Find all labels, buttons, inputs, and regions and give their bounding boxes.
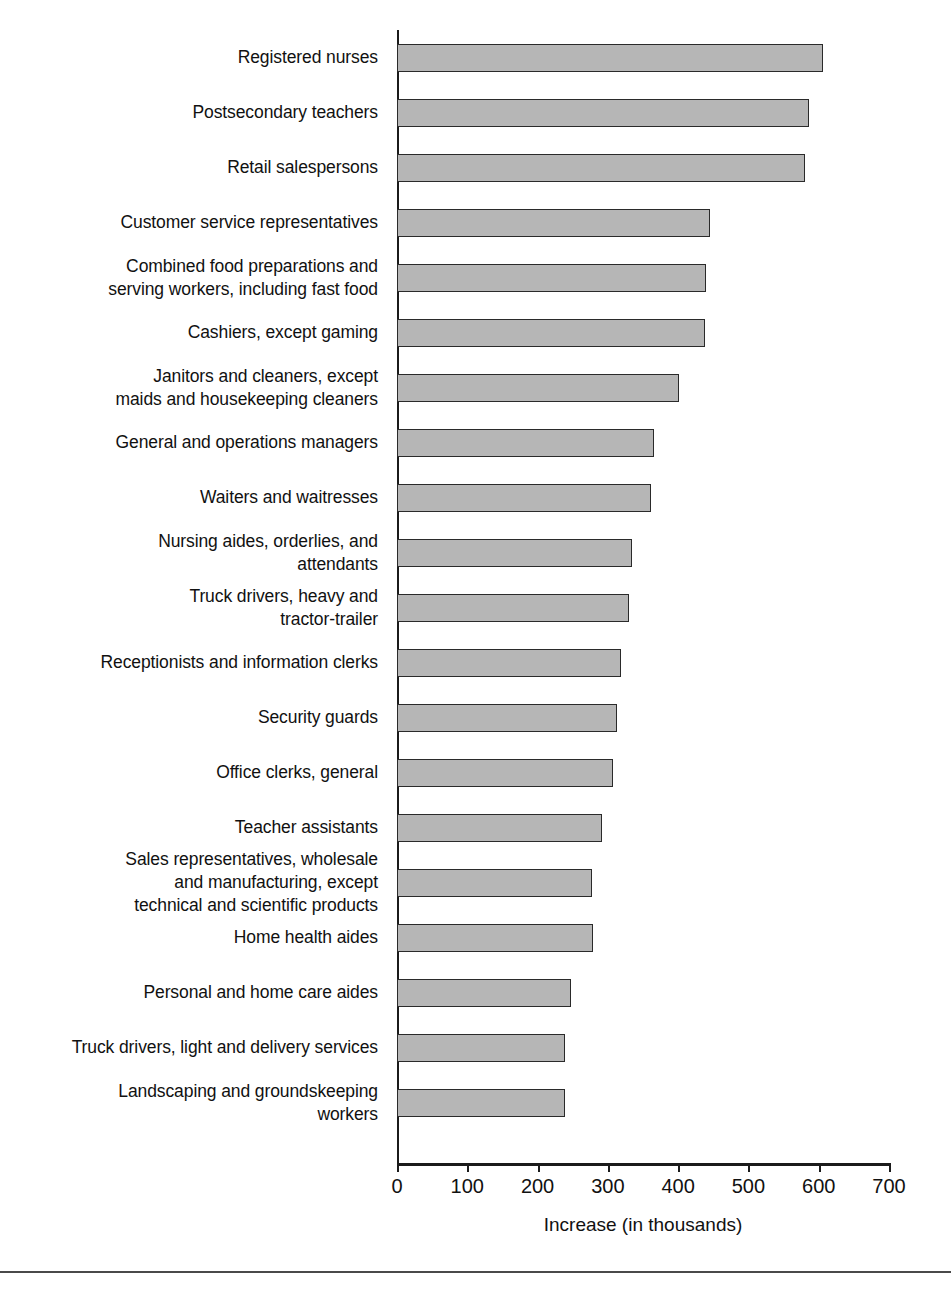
category-label-row: Truck drivers, light and delivery servic… xyxy=(0,1020,387,1075)
horizontal-bar-chart: Registered nursesPostsecondary teachersR… xyxy=(0,0,951,1290)
bar-row xyxy=(397,1020,897,1075)
category-label-row: Office clerks, general xyxy=(0,745,387,800)
category-label-row: Combined food preparations and serving w… xyxy=(0,250,387,305)
category-label: Truck drivers, light and delivery servic… xyxy=(72,1036,387,1059)
bar xyxy=(397,594,629,622)
category-label-row: General and operations managers xyxy=(0,415,387,470)
category-label: General and operations managers xyxy=(116,431,388,454)
category-label-row: Postsecondary teachers xyxy=(0,85,387,140)
category-label: Teacher assistants xyxy=(235,816,387,839)
category-label: Sales representatives, wholesale and man… xyxy=(125,848,387,917)
bar xyxy=(397,44,823,72)
bar-row xyxy=(397,965,897,1020)
x-tick xyxy=(678,1163,680,1172)
x-axis-title: Increase (in thousands) xyxy=(397,1213,889,1237)
category-label: Truck drivers, heavy and tractor-trailer xyxy=(189,585,387,631)
category-label: Customer service representatives xyxy=(121,211,387,234)
category-label-row: Home health aides xyxy=(0,910,387,965)
x-tick xyxy=(538,1163,540,1172)
x-tick-label: 200 xyxy=(521,1174,554,1198)
category-label-row: Waiters and waitresses xyxy=(0,470,387,525)
bar xyxy=(397,1034,565,1062)
bar xyxy=(397,759,613,787)
category-label: Security guards xyxy=(258,706,387,729)
bar-row xyxy=(397,525,897,580)
x-tick xyxy=(467,1163,469,1172)
x-tick xyxy=(748,1163,750,1172)
category-label-row: Teacher assistants xyxy=(0,800,387,855)
category-label-row: Nursing aides, orderlies, and attendants xyxy=(0,525,387,580)
bar-row xyxy=(397,30,897,85)
bar xyxy=(397,484,651,512)
category-label: Waiters and waitresses xyxy=(200,486,387,509)
bar-row xyxy=(397,140,897,195)
category-label: Home health aides xyxy=(234,926,387,949)
bar-row xyxy=(397,910,897,965)
bar-rows xyxy=(397,30,897,1130)
bar xyxy=(397,154,805,182)
x-tick-label: 400 xyxy=(661,1174,694,1198)
bar xyxy=(397,539,632,567)
x-axis-ticks: 0100200300400500600700 xyxy=(397,1163,889,1193)
category-label: Registered nurses xyxy=(238,46,387,69)
bar-row xyxy=(397,85,897,140)
x-tick-label: 100 xyxy=(451,1174,484,1198)
x-tick xyxy=(397,1163,399,1172)
bar-row xyxy=(397,800,897,855)
category-label-row: Customer service representatives xyxy=(0,195,387,250)
bar-row xyxy=(397,250,897,305)
category-label: Office clerks, general xyxy=(216,761,387,784)
x-tick-label: 600 xyxy=(802,1174,835,1198)
bar xyxy=(397,814,602,842)
category-label-row: Janitors and cleaners, except maids and … xyxy=(0,360,387,415)
category-label: Landscaping and groundskeeping workers xyxy=(118,1080,387,1126)
x-tick-label: 300 xyxy=(591,1174,624,1198)
footer-divider xyxy=(0,1271,951,1273)
x-tick-label: 700 xyxy=(872,1174,905,1198)
category-label-row: Security guards xyxy=(0,690,387,745)
bar-row xyxy=(397,415,897,470)
bar xyxy=(397,319,705,347)
category-axis-labels: Registered nursesPostsecondary teachersR… xyxy=(0,30,387,1130)
category-label-row: Cashiers, except gaming xyxy=(0,305,387,360)
bar-row xyxy=(397,470,897,525)
bar-row xyxy=(397,360,897,415)
bar-row xyxy=(397,690,897,745)
category-label: Combined food preparations and serving w… xyxy=(108,255,387,301)
category-label-row: Registered nurses xyxy=(0,30,387,85)
bar-row xyxy=(397,195,897,250)
category-label-row: Truck drivers, heavy and tractor-trailer xyxy=(0,580,387,635)
bar-row xyxy=(397,635,897,690)
bar-row xyxy=(397,305,897,360)
bar xyxy=(397,374,679,402)
category-label: Nursing aides, orderlies, and attendants xyxy=(158,530,387,576)
bar xyxy=(397,429,654,457)
bar xyxy=(397,209,710,237)
x-tick xyxy=(819,1163,821,1172)
bar-row xyxy=(397,1075,897,1130)
category-label: Postsecondary teachers xyxy=(192,101,387,124)
bar-row xyxy=(397,745,897,800)
plot-area xyxy=(397,30,897,1160)
category-label-row: Retail salespersons xyxy=(0,140,387,195)
category-label: Janitors and cleaners, except maids and … xyxy=(116,365,388,411)
category-label-row: Receptionists and information clerks xyxy=(0,635,387,690)
bar-row xyxy=(397,855,897,910)
category-label: Receptionists and information clerks xyxy=(100,651,387,674)
bar xyxy=(397,704,617,732)
category-label: Personal and home care aides xyxy=(143,981,387,1004)
x-tick-label: 500 xyxy=(732,1174,765,1198)
category-label: Cashiers, except gaming xyxy=(188,321,387,344)
bar xyxy=(397,924,593,952)
x-tick xyxy=(608,1163,610,1172)
bar xyxy=(397,264,706,292)
bar-row xyxy=(397,580,897,635)
category-label: Retail salespersons xyxy=(227,156,387,179)
bar xyxy=(397,1089,565,1117)
x-tick-label: 0 xyxy=(391,1174,402,1198)
bar xyxy=(397,99,809,127)
bar xyxy=(397,649,621,677)
category-label-row: Landscaping and groundskeeping workers xyxy=(0,1075,387,1130)
category-label-row: Personal and home care aides xyxy=(0,965,387,1020)
category-label-row: Sales representatives, wholesale and man… xyxy=(0,855,387,910)
